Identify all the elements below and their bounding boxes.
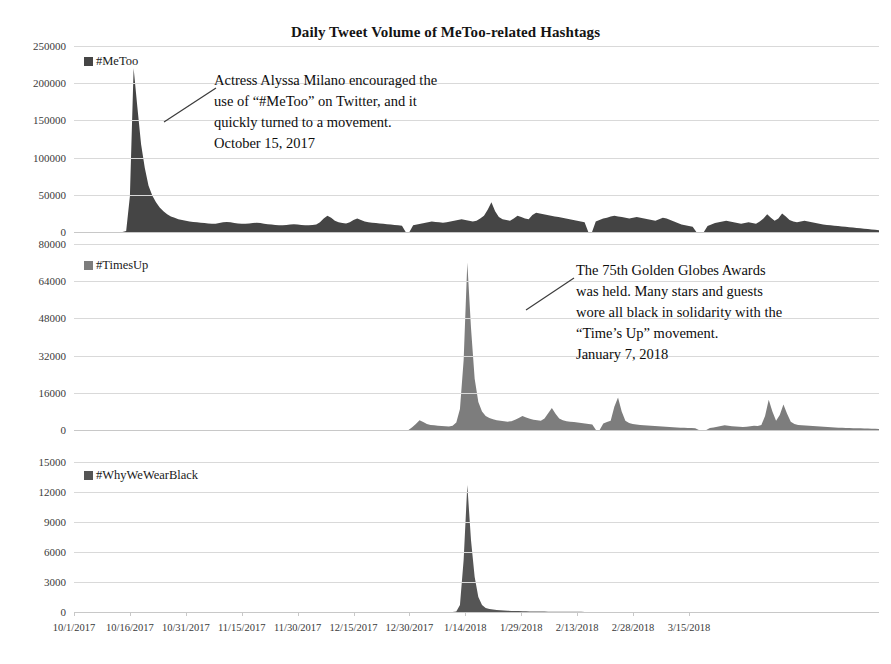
legend-label-metoo: #MeToo [96, 54, 138, 69]
x-tick-mark [186, 612, 187, 616]
annotation-metoo: Actress Alyssa Milano encouraged the use… [214, 70, 544, 154]
y-tick-label: 50000 [39, 189, 67, 201]
gridline [74, 158, 879, 159]
legend-swatch-whywewearblack [84, 471, 93, 480]
y-tick-label: 150000 [33, 114, 66, 126]
x-tick-mark [354, 612, 355, 616]
y-tick-label: 32000 [39, 350, 67, 362]
x-tick-label: 12/15/2017 [330, 622, 378, 633]
legend-whywewearblack: #WhyWeWearBlack [84, 468, 198, 483]
legend-label-whywewearblack: #WhyWeWearBlack [96, 468, 198, 483]
y-tick-label: 64000 [39, 275, 67, 287]
legend-timesup: #TimesUp [84, 258, 148, 273]
annotation-timesup: The 75th Golden Globes Awards was held. … [576, 260, 886, 365]
x-tick-label: 10/1/2017 [53, 622, 96, 633]
x-tick-mark [409, 612, 410, 616]
y-tick-label: 12000 [39, 486, 67, 498]
x-tick-label: 1/14/2018 [444, 622, 487, 633]
y-tick-label: 200000 [33, 77, 66, 89]
y-axis-timesup: 80000640004800032000160000 [0, 244, 70, 430]
x-tick-mark [465, 612, 466, 616]
gridline [74, 46, 879, 47]
x-tick-label: 2/28/2018 [612, 622, 655, 633]
x-tick-label: 11/15/2017 [218, 622, 265, 633]
y-tick-label: 9000 [44, 516, 66, 528]
x-tick-label: 10/31/2017 [162, 622, 210, 633]
x-axis: 10/1/201710/16/201710/31/201711/15/20171… [0, 612, 891, 646]
chart-title: Daily Tweet Volume of MeToo-related Hash… [0, 24, 891, 41]
x-axis-line [74, 612, 879, 613]
gridline [74, 522, 879, 523]
x-tick-label: 10/16/2017 [106, 622, 154, 633]
annotation-leader-timesup [524, 276, 576, 312]
x-tick-mark [298, 612, 299, 616]
gridline [74, 244, 879, 245]
x-tick-mark [242, 612, 243, 616]
y-axis-metoo: 250000200000150000100000500000 [0, 46, 70, 232]
panel-timesup: 80000640004800032000160000 #TimesUp The … [0, 244, 891, 430]
gridline [74, 552, 879, 553]
legend-metoo: #MeToo [84, 54, 138, 69]
x-tick-label: 1/29/2018 [500, 622, 543, 633]
y-tick-label: 16000 [39, 387, 67, 399]
y-tick-label: 48000 [39, 312, 67, 324]
legend-swatch-timesup [84, 261, 93, 270]
y-tick-label: 0 [61, 226, 67, 238]
panel-whywewearblack: 15000120009000600030000 #WhyWeWearBlack [0, 462, 891, 612]
gridline [74, 430, 879, 431]
panel-metoo: 250000200000150000100000500000 #MeToo Ac… [0, 46, 891, 232]
x-tick-label: 3/15/2018 [668, 622, 711, 633]
y-tick-label: 3000 [44, 576, 66, 588]
x-tick-label: 2/13/2018 [556, 622, 599, 633]
gridline [74, 232, 879, 233]
x-tick-mark [130, 612, 131, 616]
plot-area-whywewearblack [74, 462, 879, 612]
chart-root: Daily Tweet Volume of MeToo-related Hash… [0, 0, 891, 664]
y-tick-label: 250000 [33, 40, 66, 52]
legend-label-timesup: #TimesUp [96, 258, 148, 273]
gridline [74, 492, 879, 493]
series-area-whywewearblack [74, 462, 879, 612]
x-tick-mark [689, 612, 690, 616]
y-tick-label: 15000 [39, 456, 67, 468]
x-tick-label: 12/30/2017 [385, 622, 433, 633]
gridline [74, 582, 879, 583]
gridline [74, 195, 879, 196]
gridline [74, 393, 879, 394]
annotation-leader-metoo [162, 86, 218, 124]
legend-swatch-metoo [84, 57, 93, 66]
x-tick-mark [633, 612, 634, 616]
x-tick-mark [521, 612, 522, 616]
y-tick-label: 80000 [39, 238, 67, 250]
gridline [74, 462, 879, 463]
y-axis-whywewearblack: 15000120009000600030000 [0, 462, 70, 612]
x-tick-mark [74, 612, 75, 616]
y-tick-label: 0 [61, 424, 67, 436]
y-tick-label: 6000 [44, 546, 66, 558]
y-tick-label: 100000 [33, 152, 66, 164]
x-tick-mark [577, 612, 578, 616]
x-tick-label: 11/30/2017 [274, 622, 321, 633]
